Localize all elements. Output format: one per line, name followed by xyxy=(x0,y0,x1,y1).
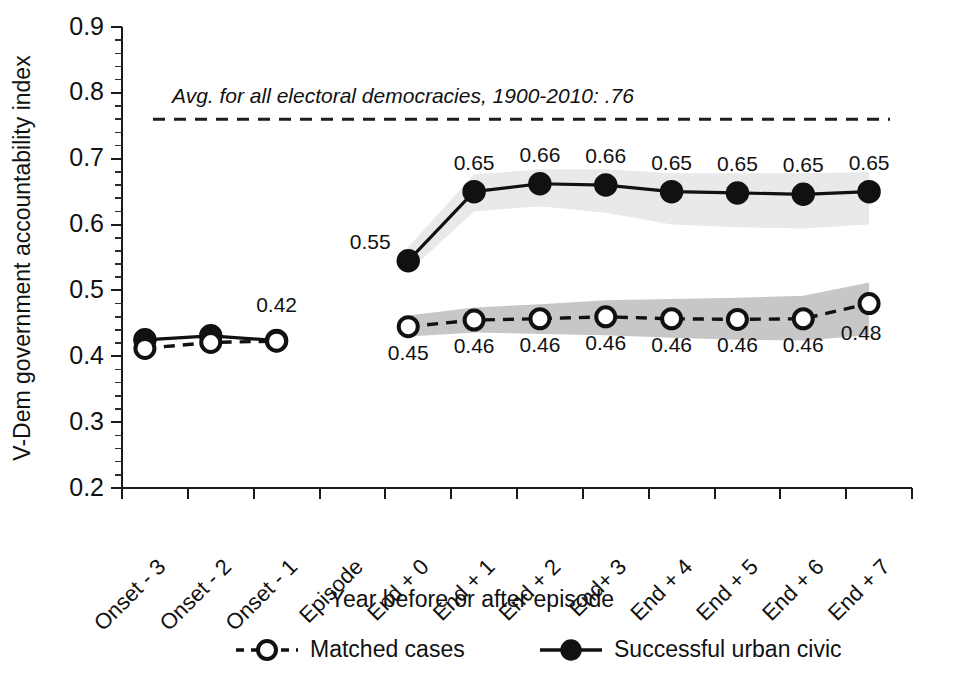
legend-marker xyxy=(258,641,276,659)
y-axis-title: V-Dem government accountability index xyxy=(9,55,35,461)
point-value-label: 0.45 xyxy=(388,341,429,364)
x-tick-label: Onset - 3 xyxy=(89,554,171,636)
data-point-marker xyxy=(463,181,485,203)
point-value-label: 0.46 xyxy=(519,333,560,356)
data-point-marker xyxy=(201,333,220,352)
data-point-marker xyxy=(794,309,813,328)
confidence-bands xyxy=(145,169,869,348)
point-value-label: 0.55 xyxy=(350,230,391,253)
data-point-marker xyxy=(595,174,617,196)
point-value-label: 0.46 xyxy=(454,334,495,357)
legend-item[interactable]: Matched cases xyxy=(236,636,465,662)
y-tick-label: 0.7 xyxy=(69,143,104,171)
data-point-marker xyxy=(728,310,747,329)
y-tick-label: 0.3 xyxy=(69,407,104,435)
point-value-label: 0.46 xyxy=(651,333,692,356)
legend-marker xyxy=(561,640,581,660)
data-point-marker xyxy=(858,181,880,203)
point-value-label: 0.65 xyxy=(651,151,692,174)
y-tick-label: 0.6 xyxy=(69,209,104,237)
legend-label: Successful urban civic xyxy=(614,636,842,662)
y-axis-tick-labels: 0.90.80.70.60.50.40.30.2 xyxy=(69,12,104,501)
data-point-marker xyxy=(860,294,879,313)
y-tick-label: 0.9 xyxy=(69,12,104,40)
data-point-marker xyxy=(267,332,286,351)
reference-line-note: Avg. for all electoral democracies, 1900… xyxy=(170,84,634,107)
legend-item[interactable]: Successful urban civic xyxy=(540,636,842,662)
y-tick-label: 0.4 xyxy=(69,341,104,369)
accountability-index-line-chart: Avg. for all electoral democracies, 1900… xyxy=(0,0,955,686)
point-value-label: 0.66 xyxy=(519,143,560,166)
reference-line-group: Avg. for all electoral democracies, 1900… xyxy=(153,84,890,119)
y-axis-ticks xyxy=(111,27,122,488)
x-tick-label: End + 5 xyxy=(691,554,763,626)
data-point-marker xyxy=(792,183,814,205)
y-tick-label: 0.8 xyxy=(69,77,104,105)
point-value-label: 0.46 xyxy=(783,333,824,356)
data-point-marker xyxy=(399,317,418,336)
data-point-marker xyxy=(530,309,549,328)
x-tick-label: End + 6 xyxy=(757,554,829,626)
data-point-marker xyxy=(726,182,748,204)
point-value-label: 0.65 xyxy=(717,152,758,175)
x-axis-title: Year before or after episode xyxy=(330,586,614,612)
data-point-marker xyxy=(662,309,681,328)
data-point-marker xyxy=(135,339,154,358)
point-value-label: 0.48 xyxy=(841,321,882,344)
chart-legend: Matched casesSuccessful urban civic xyxy=(236,636,842,662)
point-value-label: 0.65 xyxy=(783,153,824,176)
point-value-label: 0.66 xyxy=(585,144,626,167)
figure-container: Avg. for all electoral democracies, 1900… xyxy=(0,0,955,686)
data-point-marker xyxy=(596,307,615,326)
point-value-label: 0.42 xyxy=(256,293,297,316)
data-point-marker xyxy=(529,173,551,195)
x-tick-label: Onset - 2 xyxy=(155,554,237,636)
data-point-marker xyxy=(465,311,484,330)
point-value-label: 0.65 xyxy=(849,151,890,174)
point-value-label: 0.46 xyxy=(717,333,758,356)
y-tick-label: 0.2 xyxy=(69,473,104,501)
x-tick-label: End + 7 xyxy=(823,554,895,626)
point-value-label: 0.46 xyxy=(585,331,626,354)
y-tick-label: 0.5 xyxy=(69,275,104,303)
data-point-marker xyxy=(397,250,419,272)
x-tick-label: End + 4 xyxy=(625,554,697,626)
legend-label: Matched cases xyxy=(310,636,465,662)
x-tick-label: Onset - 1 xyxy=(220,554,302,636)
x-axis-ticks xyxy=(122,488,912,499)
data-point-marker xyxy=(661,181,683,203)
point-value-label: 0.65 xyxy=(454,151,495,174)
